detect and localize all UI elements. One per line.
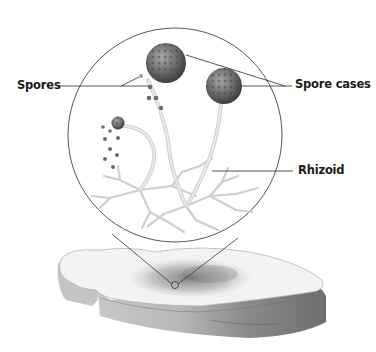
label-spores: Spores — [17, 78, 61, 92]
bread-slice — [58, 248, 326, 338]
label-spore-cases: Spore cases — [295, 77, 371, 91]
label-rhizoid: Rhizoid — [298, 163, 344, 177]
spore-case-medium — [206, 68, 242, 104]
spore-case-small — [112, 117, 125, 130]
spore-case-large — [146, 43, 186, 83]
